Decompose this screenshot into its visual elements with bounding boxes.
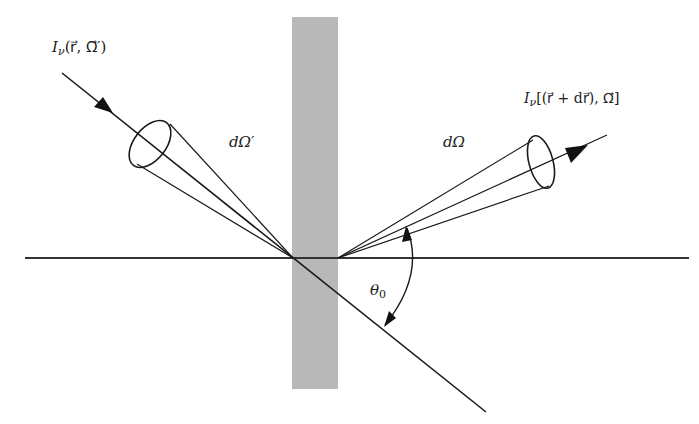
incident-intensity-subscript: ν: [58, 45, 65, 58]
outgoing-intensity-label: Iν[(r⃗ + dr⃗), Ω⃗]: [524, 90, 620, 109]
angle-label: θ0: [370, 281, 386, 301]
incident-intensity-label: Iν(r⃗, Ω⃗′): [52, 38, 106, 58]
incident-ray: [62, 73, 486, 412]
outgoing-arrow-icon: [565, 145, 588, 163]
angle-arc: [385, 228, 413, 325]
incident-intensity-args: (r⃗, Ω⃗′): [65, 38, 107, 56]
incident-arrow-icon: [94, 97, 113, 113]
slab: [292, 17, 338, 389]
angle-subscript: 0: [379, 288, 386, 301]
outgoing-solid-angle-label: dΩ: [443, 133, 465, 151]
outgoing-intensity-args: [(r⃗ + dr⃗), Ω⃗]: [536, 90, 619, 106]
angle-symbol: θ: [370, 281, 379, 299]
incident-solid-angle-label: dΩ′: [229, 133, 254, 151]
diagram-canvas: [0, 0, 699, 424]
